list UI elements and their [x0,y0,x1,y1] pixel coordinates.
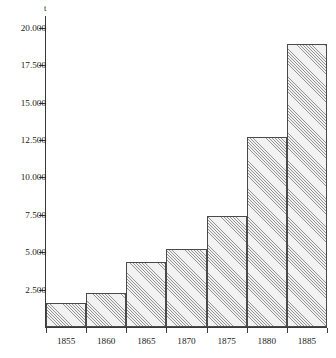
y-axis-unit-label: t [44,3,47,13]
x-axis-tick-label: 1875 [217,336,235,347]
x-axis-tick-mark [287,328,288,333]
y-axis-tick-label: 10.000 [10,172,46,182]
x-axis-tick-mark [86,328,87,333]
y-axis-tick-label: 15.000 [10,98,46,108]
x-axis-tick-mark [46,328,47,333]
y-axis-tick-label: 20.000 [10,23,46,33]
y-axis-tick-label: 5.000 [10,247,46,257]
x-axis-tick-mark [327,328,328,333]
x-axis-tick-mark [247,328,248,333]
x-axis-line [45,327,327,328]
y-axis-tick-label: 17.500 [10,60,46,70]
bar [46,303,86,327]
bar [247,137,287,327]
bar [166,249,206,327]
x-axis-tick-label: 1885 [298,336,316,347]
y-axis-tick-label: 2.500 [10,285,46,295]
x-axis-tick-label: 1880 [258,336,276,347]
x-axis-tick-label: 1870 [177,336,195,347]
bar [287,44,327,327]
plot-area [46,16,327,327]
x-axis-tick-label: 1860 [97,336,115,347]
bar [86,293,126,327]
bar [126,262,166,327]
y-axis-tick-label: 7.500 [10,210,46,220]
y-axis-tick-label: 12.500 [10,135,46,145]
x-axis-tick-label: 1865 [137,336,155,347]
bar-chart: t 2.5005.0007.50010.00012.50015.00017.50… [0,0,336,358]
x-axis-tick-mark [207,328,208,333]
bar [207,216,247,327]
x-axis-tick-mark [126,328,127,333]
x-axis-tick-label: 1855 [57,336,75,347]
x-axis-tick-mark [166,328,167,333]
